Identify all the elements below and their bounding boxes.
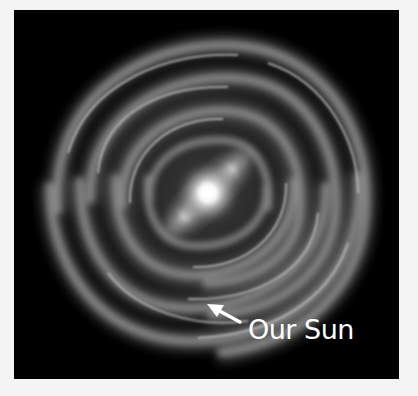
our-sun-label: Our Sun: [248, 316, 354, 343]
galaxy-image-panel: Our Sun: [14, 10, 399, 379]
